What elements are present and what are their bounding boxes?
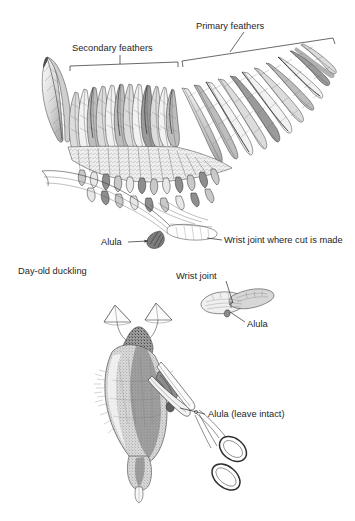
day-old-duckling-label: Day-old duckling xyxy=(18,266,87,276)
figure-root: Secondary feathers Primary feathers Alul… xyxy=(0,0,355,521)
alula-leave-intact-label: Alula (leave intact) xyxy=(208,409,284,419)
secondary-feathers-group xyxy=(69,84,179,156)
alula-wing-label: Alula xyxy=(101,237,123,247)
wrist-joint-inset-label: Wrist joint xyxy=(176,271,217,281)
illustration-canvas: Secondary feathers Primary feathers Alul… xyxy=(0,0,355,521)
folded-alula-tuft xyxy=(224,310,230,317)
alula-inset-label: Alula xyxy=(247,319,269,329)
primary-feathers-label: Primary feathers xyxy=(196,21,265,31)
wrist-joint-cut-label: Wrist joint where cut is made xyxy=(224,235,343,245)
secondary-feathers-label: Secondary feathers xyxy=(72,43,153,53)
